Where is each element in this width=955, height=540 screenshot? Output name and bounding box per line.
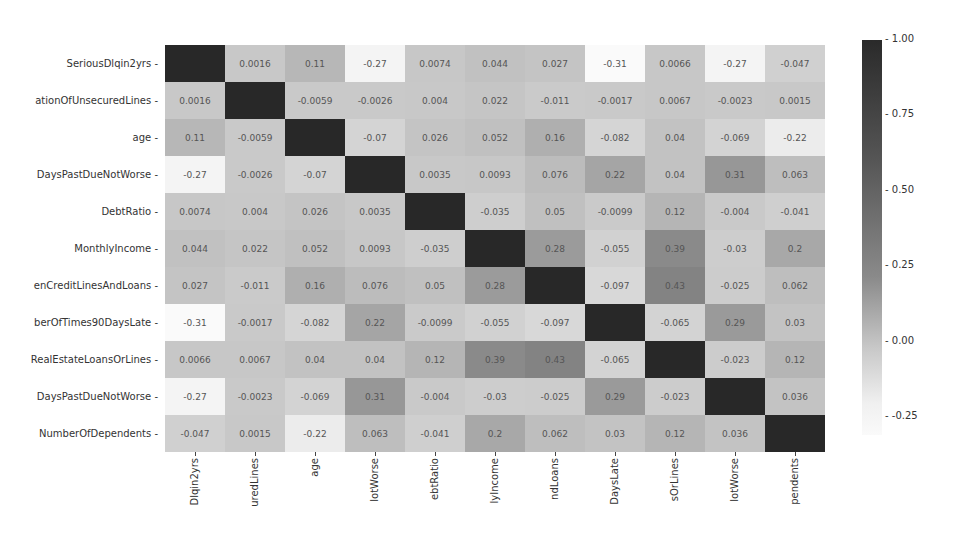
heatmap-cell: -0.07	[285, 156, 345, 193]
heatmap-cell: -0.041	[405, 415, 465, 452]
heatmap-cell: -0.065	[585, 341, 645, 378]
heatmap-cell: 0.12	[645, 415, 705, 452]
heatmap-cell: 0.28	[525, 230, 585, 267]
heatmap-cell: -0.025	[705, 267, 765, 304]
heatmap-cell: -0.0023	[225, 378, 285, 415]
heatmap-cell: 0.11	[285, 45, 345, 82]
heatmap-cell: 0.29	[585, 378, 645, 415]
heatmap-cell: 0.0035	[345, 193, 405, 230]
x-tick	[435, 452, 436, 456]
heatmap-cell: -0.023	[645, 378, 705, 415]
heatmap-cell: 0.03	[585, 415, 645, 452]
heatmap-cell: -0.011	[525, 82, 585, 119]
heatmap-cell: 0.0067	[645, 82, 705, 119]
heatmap-cell: 0.04	[645, 156, 705, 193]
heatmap-cell: 0.16	[285, 267, 345, 304]
y-tick-label: DaysPastDueNotWorse	[37, 378, 158, 415]
x-tick-label: ebtRatio	[429, 458, 440, 500]
heatmap-cell: -0.22	[765, 119, 825, 156]
heatmap-cell: 0.044	[465, 45, 525, 82]
heatmap-cell: 0.43	[525, 341, 585, 378]
heatmap-cell	[285, 119, 345, 156]
heatmap-cell: 0.0093	[345, 230, 405, 267]
x-tick	[495, 452, 496, 456]
y-tick-label: DaysPastDueNotWorse	[37, 156, 158, 193]
heatmap-cell: 0.0015	[225, 415, 285, 452]
heatmap-cell: 0.05	[405, 267, 465, 304]
heatmap-cell: 0.12	[645, 193, 705, 230]
y-tick-label: enCreditLinesAndLoans	[34, 267, 158, 304]
heatmap-cell: 0.063	[345, 415, 405, 452]
y-tick-label: RealEstateLoansOrLines	[31, 341, 158, 378]
colorbar-tick-label: - -0.25	[885, 410, 918, 421]
heatmap-cell	[225, 82, 285, 119]
x-tick-label: lotWorse	[729, 458, 740, 502]
heatmap-cell: 0.39	[465, 341, 525, 378]
heatmap-cell: 0.04	[285, 341, 345, 378]
x-tick	[255, 452, 256, 456]
heatmap-cell: 0.16	[525, 119, 585, 156]
heatmap-cell: -0.27	[345, 45, 405, 82]
heatmap-cell	[585, 304, 645, 341]
heatmap-cell	[465, 230, 525, 267]
y-tick-label: MonthlyIncome	[74, 230, 158, 267]
x-tick-label: lotWorse	[369, 458, 380, 502]
heatmap-cell: -0.047	[765, 45, 825, 82]
x-tick	[375, 452, 376, 456]
heatmap-cell: -0.023	[705, 341, 765, 378]
heatmap-cell: 0.0074	[405, 45, 465, 82]
heatmap-cell: -0.0017	[225, 304, 285, 341]
heatmap-cell: -0.097	[525, 304, 585, 341]
y-tick-label: berOfTimes90DaysLate	[34, 304, 158, 341]
heatmap-cell: 0.04	[345, 341, 405, 378]
x-tick	[315, 452, 316, 456]
heatmap-cell	[525, 267, 585, 304]
heatmap-cell: -0.27	[705, 45, 765, 82]
heatmap-cell: 0.0016	[225, 45, 285, 82]
heatmap-cell: -0.055	[465, 304, 525, 341]
heatmap-cell: -0.0059	[225, 119, 285, 156]
heatmap-cell: 0.027	[525, 45, 585, 82]
heatmap-cell: -0.0023	[705, 82, 765, 119]
heatmap-cell: -0.082	[285, 304, 345, 341]
heatmap-cell: -0.069	[705, 119, 765, 156]
y-tick-label: SeriousDlqin2yrs	[67, 45, 158, 82]
heatmap-cell: 0.027	[165, 267, 225, 304]
heatmap-cell: -0.31	[165, 304, 225, 341]
heatmap-cell: 0.31	[345, 378, 405, 415]
heatmap-cell: 0.31	[705, 156, 765, 193]
heatmap-cell: -0.004	[705, 193, 765, 230]
heatmap-cell: -0.035	[465, 193, 525, 230]
heatmap-cell: -0.0017	[585, 82, 645, 119]
x-tick	[795, 452, 796, 456]
colorbar-tick-label: - 0.25	[885, 259, 914, 270]
x-tick-label: lyIncome	[489, 458, 500, 504]
heatmap-cell: -0.065	[645, 304, 705, 341]
heatmap-cell: -0.22	[285, 415, 345, 452]
y-tick-label: age	[133, 119, 158, 156]
heatmap-cell: 0.004	[405, 82, 465, 119]
x-tick-label: age	[309, 458, 320, 477]
heatmap-cell: -0.047	[165, 415, 225, 452]
x-tick	[735, 452, 736, 456]
heatmap-cell: -0.035	[405, 230, 465, 267]
heatmap-cell: 0.022	[225, 230, 285, 267]
heatmap-cell: 0.0074	[165, 193, 225, 230]
heatmap-cell: -0.07	[345, 119, 405, 156]
heatmap-cell: -0.025	[525, 378, 585, 415]
colorbar-tick-label: - 0.75	[885, 108, 914, 119]
heatmap-cell: 0.28	[465, 267, 525, 304]
colorbar-tick-label: - 0.50	[885, 184, 914, 195]
x-tick-label: sOrLines	[669, 458, 680, 501]
heatmap-cell: 0.076	[525, 156, 585, 193]
heatmap-cell: 0.022	[465, 82, 525, 119]
heatmap-cell: 0.04	[645, 119, 705, 156]
heatmap-cell: 0.29	[705, 304, 765, 341]
heatmap-cell: 0.2	[465, 415, 525, 452]
heatmap-cell: -0.055	[585, 230, 645, 267]
heatmap-cell: 0.052	[465, 119, 525, 156]
heatmap-cell: 0.0016	[165, 82, 225, 119]
heatmap-cell: -0.0099	[405, 304, 465, 341]
heatmap-cell: -0.0099	[585, 193, 645, 230]
heatmap-cell: 0.052	[285, 230, 345, 267]
